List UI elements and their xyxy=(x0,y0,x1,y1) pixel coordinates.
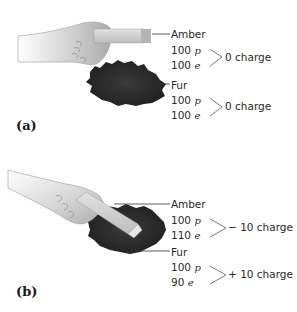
panel-a-fur-label: Fur xyxy=(171,79,187,91)
panel-b-amber-charge: − 10 charge xyxy=(228,221,293,233)
panel-a-amber-charge: 0 charge xyxy=(225,51,271,63)
panel-a-label: (a) xyxy=(16,118,37,133)
panel-b-fur-electrons: 90 e xyxy=(171,275,194,290)
panel-a-fur-protons: 100 p xyxy=(171,93,201,108)
panel-a-fur-electrons: 100 e xyxy=(171,108,200,123)
panel-b-amber-label: Amber xyxy=(171,198,205,210)
panel-a-hand xyxy=(18,22,112,65)
panel-b-amber-brace xyxy=(210,219,226,237)
panel-a-fur-brace xyxy=(210,98,222,116)
panel-a-amber-electrons: 100 e xyxy=(171,58,200,73)
panel-b-amber-protons: 100 p xyxy=(171,213,201,228)
panel-b-fur-charge: + 10 charge xyxy=(228,268,293,280)
panel-a-amber-label: Amber xyxy=(171,28,205,40)
panel-b-label: (b) xyxy=(16,284,37,299)
panel-a-fur-charge: 0 charge xyxy=(225,100,271,112)
illustration xyxy=(0,0,297,312)
panel-b-fur-label: Fur xyxy=(171,246,187,258)
panel-a-amber-protons: 100 p xyxy=(171,43,201,58)
panel-a-amber-rod xyxy=(94,29,151,43)
panel-b-amber-electrons: 110 e xyxy=(171,228,200,243)
panel-b-fur-protons: 100 p xyxy=(171,260,201,275)
panel-b-fur-brace xyxy=(210,266,226,284)
panel-a-fur xyxy=(86,60,166,106)
panel-a-amber-brace xyxy=(210,49,222,66)
